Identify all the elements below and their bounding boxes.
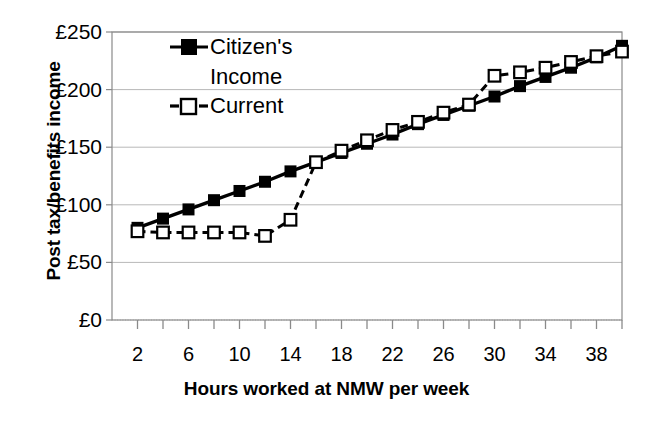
x-tick-label: 22 <box>370 344 416 364</box>
x-tick-label: 10 <box>217 344 263 364</box>
x-tick-label: 18 <box>319 344 365 364</box>
x-tick-label: 30 <box>472 344 518 364</box>
legend-entry-citizens-income: Citizen's <box>168 32 354 62</box>
legend-label-citizens-income-line1: Citizen's <box>210 32 292 61</box>
legend-label-current: Current <box>210 91 283 120</box>
x-axis-title: Hours worked at NMW per week <box>0 378 653 400</box>
legend-entry-current: Current <box>168 91 354 121</box>
x-tick-label: 26 <box>421 344 467 364</box>
chart-legend: Citizen's Income Current <box>168 32 354 121</box>
x-tick-label: 34 <box>523 344 569 364</box>
x-tick-label: 14 <box>268 344 314 364</box>
x-tick-label: 2 <box>115 344 161 364</box>
x-tick-label: 6 <box>166 344 212 364</box>
legend-marker-filled-square <box>168 32 210 62</box>
x-tick-label: 38 <box>574 344 620 364</box>
chart-container: Post tax/benefits income £0£50£100£150£2… <box>0 0 653 422</box>
legend-marker-open-square <box>168 91 210 121</box>
legend-label-citizens-income-line2: Income <box>168 62 354 91</box>
